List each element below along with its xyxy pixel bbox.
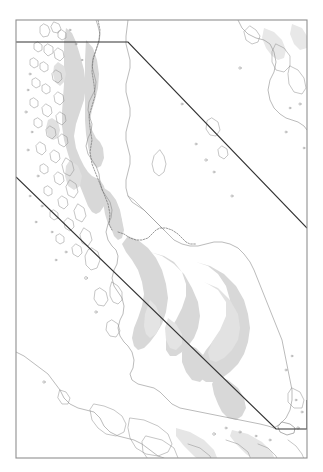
figure-caption bbox=[196, 0, 321, 12]
map-background bbox=[0, 0, 323, 472]
map-figure bbox=[0, 0, 323, 472]
map-canvas bbox=[0, 0, 323, 472]
